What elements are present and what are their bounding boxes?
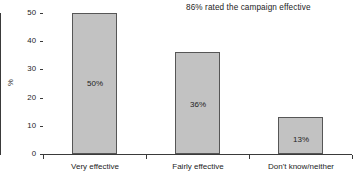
chart-annotation: 86% rated the campaign effective [186,3,311,12]
y-tick-label: 20 [17,94,36,102]
y-tick-mark [40,13,43,14]
y-tick-label: 0 [17,150,36,158]
x-tick-mark [146,155,147,159]
bar-chart: 86% rated the campaign effective % 01020… [0,0,360,181]
bar-value-label: 13% [271,135,331,144]
x-category-label: Don't know/neither [246,162,356,171]
y-tick-mark [40,98,43,99]
x-tick-mark [43,155,44,159]
y-tick-mark [40,126,43,127]
x-tick-mark [352,155,353,159]
bar-value-label: 36% [168,100,228,109]
x-tick-mark [249,155,250,159]
y-tick-label: 30 [17,65,36,73]
x-axis-line [43,154,352,155]
y-axis-line [0,13,1,155]
x-category-label: Fairly effective [143,162,253,171]
y-axis-label: % [6,72,15,94]
bar-value-label: 50% [65,79,125,88]
y-tick-mark [40,69,43,70]
y-tick-mark [40,41,43,42]
x-category-label: Very effective [40,162,150,171]
y-tick-label: 40 [17,37,36,45]
y-tick-label: 10 [17,122,36,130]
y-tick-label: 50 [17,9,36,17]
